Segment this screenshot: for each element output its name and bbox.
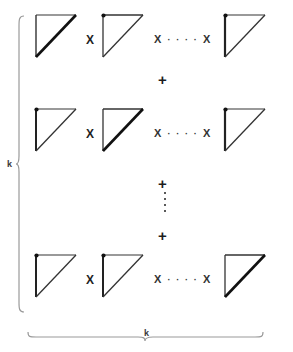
ellipsis-dot <box>164 204 166 206</box>
right-triangle-cell <box>33 106 79 154</box>
right-triangle-cell <box>100 252 146 300</box>
multiply-operator-left: X <box>154 33 163 45</box>
multiply-operator-left: X <box>154 127 163 139</box>
add-operator: + <box>158 176 167 191</box>
multiply-ellipsis-operator: X · · · · X <box>154 128 212 139</box>
multiply-ellipsis-operator: X · · · · X <box>154 34 212 45</box>
add-operator: + <box>158 72 167 87</box>
right-triangle-cell <box>222 252 268 300</box>
ellipsis-dot <box>164 210 166 212</box>
multiply-operator-left: X <box>154 273 163 285</box>
multiply-operator: X <box>86 128 94 140</box>
diagram-row: X X · · · · X <box>0 106 293 160</box>
ellipsis-dot <box>164 198 166 200</box>
diagram-row: X X · · · · X <box>0 12 293 66</box>
right-triangle-cell <box>100 106 146 154</box>
right-triangle-cell <box>33 12 79 60</box>
multiply-operator: X <box>86 274 94 286</box>
multiply-operator-right: X <box>203 273 212 285</box>
right-triangle-cell <box>33 252 79 300</box>
right-triangle-cell <box>222 106 268 154</box>
diagram-row: X X · · · · X <box>0 252 293 306</box>
add-operator: + <box>158 228 167 243</box>
ellipsis-dot <box>164 192 166 194</box>
horizontal-ellipsis: · · · · <box>168 129 199 139</box>
left-brace-label: k <box>7 160 12 169</box>
horizontal-ellipsis: · · · · <box>168 275 199 285</box>
triangle-product-sum-diagram: k k X X · · · · X <box>0 0 293 352</box>
multiply-operator: X <box>86 34 94 46</box>
multiply-ellipsis-operator: X · · · · X <box>154 274 212 285</box>
bottom-brace-label: k <box>144 329 149 338</box>
vertical-ellipsis <box>161 192 169 212</box>
right-triangle-cell <box>100 12 146 60</box>
horizontal-ellipsis: · · · · <box>168 35 199 45</box>
multiply-operator-right: X <box>203 33 212 45</box>
right-triangle-cell <box>222 12 268 60</box>
multiply-operator-right: X <box>203 127 212 139</box>
